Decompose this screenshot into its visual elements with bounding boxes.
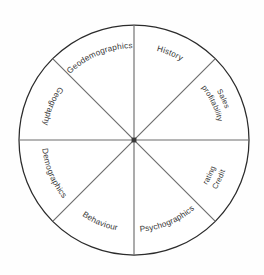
wheel-svg-canvas: History Sales profitability Credit ratin…: [0, 0, 264, 275]
wheel-center-hub: [132, 138, 137, 143]
wheel-diagram: History Sales profitability Credit ratin…: [0, 0, 264, 275]
